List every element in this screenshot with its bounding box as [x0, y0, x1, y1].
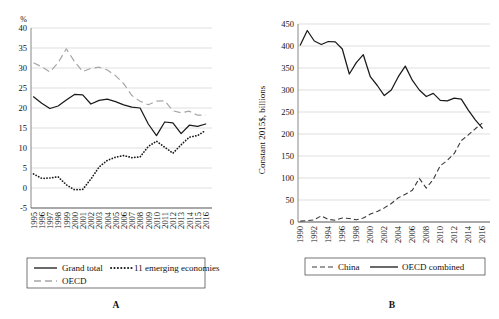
panel-b-xtick-1998: 1998 — [351, 226, 361, 243]
panel-b-series-china — [300, 123, 482, 221]
panel-a-ytick-15: 15 — [19, 123, 28, 133]
panel-a-ytick-neg5: -5 — [20, 203, 27, 213]
panel-b-x-tick-labels: 1990 1992 1994 1996 1998 2000 2002 2004 … — [295, 225, 487, 243]
panel-a-ytick-40: 40 — [19, 23, 28, 33]
panel-b-xtick-2002: 2002 — [379, 226, 389, 243]
panel-a-series-grand-total — [34, 94, 206, 135]
panel-a-svg: % 40 35 30 25 20 15 10 5 — [0, 0, 252, 319]
panel-b-series-oecd-combined — [300, 31, 482, 129]
panel-a-legend-label-emerging: 11 emerging economies — [134, 263, 220, 273]
panel-a-x-tick-labels: 1995 1996 1997 1998 1999 2000 2001 2002 … — [29, 211, 211, 229]
panel-a-ytick-35: 35 — [19, 43, 28, 53]
panel-b-xtick-2006: 2006 — [407, 226, 417, 243]
panel-b-xtick-1992: 1992 — [309, 226, 319, 243]
panel-b-legend: China OECD combined — [305, 258, 485, 275]
panel-a-ytick-10: 10 — [19, 143, 28, 153]
panel-a-legend-label-oecd: OECD — [62, 276, 87, 286]
panel-b-xtick-1996: 1996 — [337, 226, 347, 243]
panel-b-letter: B — [389, 300, 396, 310]
panel-a-ytick-20: 20 — [19, 103, 28, 113]
panel-a-gridlines — [31, 28, 212, 188]
panel-a-legend: Grand total 11 emerging economies OECD — [27, 258, 220, 288]
panel-b-xtick-2010: 2010 — [435, 226, 445, 243]
panel-b-ytick-450: 450 — [281, 19, 294, 29]
panel-b-ytick-350: 350 — [281, 63, 294, 73]
panel-b-legend-label-oecd-combined: OECD combined — [402, 262, 465, 272]
panel-b-ytick-400: 400 — [281, 41, 294, 51]
panel-a-series-emerging — [34, 130, 206, 189]
panel-b-ytick-100: 100 — [281, 173, 294, 183]
panel-b-xtick-1990: 1990 — [295, 226, 305, 243]
panel-b-xtick-1994: 1994 — [323, 225, 333, 243]
panel-a: % 40 35 30 25 20 15 10 5 — [0, 0, 252, 319]
panel-b-ytick-50: 50 — [286, 195, 295, 205]
panel-a-ytick-30: 30 — [19, 63, 28, 73]
panel-b-xtick-2008: 2008 — [421, 226, 431, 243]
panel-b-xtick-2000: 2000 — [365, 226, 375, 243]
panel-a-ytick-0: 0 — [23, 183, 27, 193]
panel-b-xtick-2012: 2012 — [449, 226, 459, 243]
panel-b-ytick-200: 200 — [281, 129, 294, 139]
panel-b-ytick-250: 250 — [281, 107, 294, 117]
panel-b-ytick-0: 0 — [290, 217, 294, 227]
panel-a-y-tick-labels: 40 35 30 25 20 15 10 5 0 -5 — [19, 23, 28, 213]
panel-b-gridlines — [298, 24, 490, 200]
panel-b-ytick-300: 300 — [281, 85, 294, 95]
panel-b-xtick-2004: 2004 — [393, 225, 403, 243]
panel-b-xtick-2014: 2014 — [463, 225, 473, 243]
panel-a-xtick-2016: 2016 — [201, 212, 211, 229]
panel-b-legend-label-china: China — [338, 262, 360, 272]
panel-b-xtick-2016: 2016 — [477, 226, 487, 243]
panel-a-ytick-5: 5 — [23, 163, 27, 173]
panel-b: Constant 2015$, billions 450 400 350 300… — [252, 0, 499, 319]
panel-b-y-axis-title: Constant 2015$, billions — [257, 85, 267, 174]
panel-a-letter: A — [113, 300, 120, 310]
panel-b-svg: Constant 2015$, billions 450 400 350 300… — [252, 0, 499, 319]
panel-b-y-tick-labels: 450 400 350 300 250 200 150 100 50 0 — [281, 19, 294, 227]
panel-a-ytick-25: 25 — [19, 83, 28, 93]
figure-container: % 40 35 30 25 20 15 10 5 — [0, 0, 499, 319]
panel-b-ytick-150: 150 — [281, 151, 294, 161]
panel-a-legend-label-grand-total: Grand total — [62, 263, 103, 273]
